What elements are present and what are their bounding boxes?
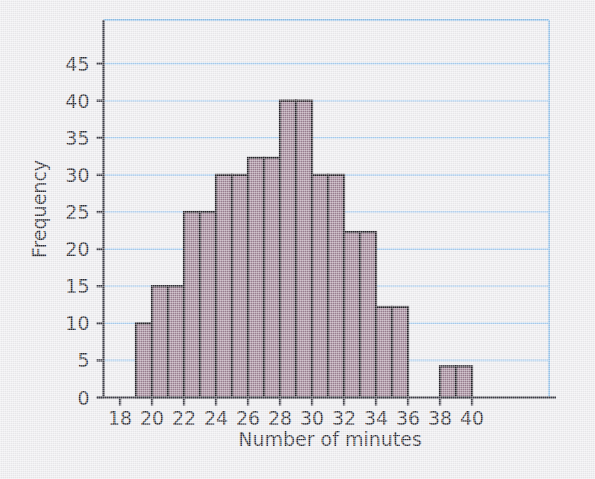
histogram-bar: [392, 307, 408, 398]
histogram-canvas: 051015202530354045 182022242628303234363…: [0, 0, 595, 479]
histogram-bar: [136, 323, 152, 397]
histogram-bar: [440, 366, 456, 397]
x-axis-title: Number of minutes: [238, 428, 422, 450]
histogram-bar: [168, 286, 184, 397]
x-tick-label: 40: [460, 407, 484, 429]
x-tick-label: 28: [268, 407, 292, 429]
y-tick-label: 30: [65, 164, 89, 186]
histogram-bar: [152, 286, 168, 397]
y-tick-label: 5: [77, 349, 89, 371]
x-tick-labels: 182022242628303234363840: [108, 407, 484, 429]
histogram-bar: [184, 212, 200, 398]
histogram-bar: [248, 158, 264, 398]
histogram-bar: [280, 101, 296, 398]
x-tick-label: 36: [396, 407, 420, 429]
y-tick-labels: 051015202530354045: [65, 53, 89, 409]
x-tick-label: 26: [236, 407, 260, 429]
histogram-bar: [344, 232, 360, 397]
x-tick-label: 24: [204, 407, 228, 429]
histogram-bar: [456, 366, 472, 397]
y-tick-label: 25: [65, 201, 89, 223]
histogram-bar: [232, 175, 248, 398]
histogram-figure: 051015202530354045 182022242628303234363…: [0, 0, 595, 479]
y-tick-label: 40: [65, 90, 89, 112]
histogram-bar: [376, 307, 392, 398]
x-tick-label: 18: [108, 407, 132, 429]
y-tick-label: 0: [77, 387, 89, 409]
x-tick-label: 32: [332, 407, 356, 429]
y-tick-label: 10: [65, 312, 89, 334]
y-tick-label: 35: [65, 127, 89, 149]
histogram-bar: [200, 212, 216, 398]
x-tick-label: 20: [140, 407, 164, 429]
histogram-bar: [360, 232, 376, 397]
histogram-bar: [328, 175, 344, 398]
y-tick-label: 45: [65, 53, 89, 75]
x-tick-label: 22: [172, 407, 196, 429]
y-tick-label: 20: [65, 238, 89, 260]
x-tick-label: 38: [428, 407, 452, 429]
y-axis-title: Frequency: [28, 160, 50, 258]
x-tick-label: 30: [300, 407, 324, 429]
x-tick-label: 34: [364, 407, 388, 429]
histogram-bar: [296, 101, 312, 398]
histogram-bar: [216, 175, 232, 398]
histogram-bar: [312, 175, 328, 398]
histogram-bar: [264, 158, 280, 398]
y-tick-label: 15: [65, 275, 89, 297]
